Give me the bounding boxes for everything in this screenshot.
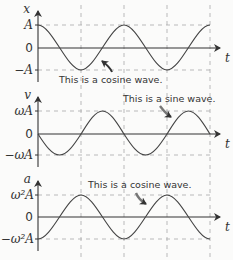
displacement-graph: x t A 0 −A This is a cosine wave. <box>14 2 230 85</box>
annotation-arrow <box>160 106 171 117</box>
top-label: ω²A <box>11 188 35 202</box>
y-axis-label: x <box>23 2 30 16</box>
bottom-label: −ω²A <box>1 232 35 246</box>
bottom-label: −ωA <box>4 148 33 162</box>
zero-label: 0 <box>25 127 33 141</box>
y-axis-label: a <box>24 172 31 186</box>
zero-label: 0 <box>25 41 33 55</box>
annotation-text: This is a sine wave. <box>122 93 215 104</box>
x-axis-label: t <box>225 51 230 65</box>
annotation-text: This is a cosine wave. <box>58 74 162 85</box>
velocity-graph: v t ωA 0 −ωA This is a sine wave. <box>4 88 230 167</box>
top-label: ωA <box>15 104 34 118</box>
y-axis-label: v <box>24 88 31 102</box>
x-axis-label: t <box>225 220 230 234</box>
acceleration-graph: a t ω²A 0 −ω²A This is a cosine wave. <box>1 172 230 251</box>
zero-label: 0 <box>25 210 33 224</box>
x-axis-label: t <box>225 137 230 151</box>
bottom-label: −A <box>14 63 33 77</box>
shm-graphs: x t A 0 −A This is a cosine wave. v t ωA… <box>0 0 233 260</box>
annotation-text: This is a cosine wave. <box>87 179 191 190</box>
top-label: A <box>23 18 33 32</box>
